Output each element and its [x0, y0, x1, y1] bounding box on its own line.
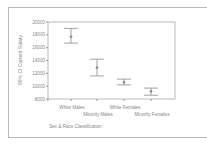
- y-tick-label: 8000: [35, 97, 46, 102]
- x-tick-label: Minority Males: [83, 112, 113, 117]
- x-tick-label: Minority Females: [135, 112, 171, 117]
- mean-marker: [96, 67, 98, 69]
- y-tick-label: 18000: [32, 32, 45, 37]
- mean-marker: [70, 36, 72, 38]
- y-tick-label: 16000: [32, 45, 45, 50]
- mean-marker: [150, 90, 152, 92]
- y-tick-label: 14000: [32, 58, 45, 63]
- mean-marker: [123, 81, 125, 83]
- y-tick-label: 12000: [32, 71, 45, 76]
- errorbar-minority-females: [144, 88, 158, 95]
- y-axis-title: 95% CI Current Salary: [17, 34, 23, 85]
- x-tick-label: White Males: [59, 105, 85, 110]
- errorbar-white-females: [117, 79, 131, 85]
- plot-area: [48, 22, 175, 99]
- x-axis-title: Sex & Race Classification: [49, 124, 102, 129]
- y-tick-label: 10000: [32, 84, 45, 89]
- errorbar-chart: 8000 10000 12000 14000 16000 18000 20000…: [0, 0, 207, 145]
- error-bars: [64, 28, 158, 95]
- errorbar-white-males: [64, 28, 78, 43]
- x-tick-label: White Females: [110, 105, 141, 110]
- errorbar-minority-males: [90, 59, 104, 76]
- x-tick-labels: White Males Minority Males White Females…: [59, 105, 170, 117]
- y-tick-label: 20000: [32, 20, 45, 25]
- y-axis: 8000 10000 12000 14000 16000 18000 20000: [32, 20, 48, 102]
